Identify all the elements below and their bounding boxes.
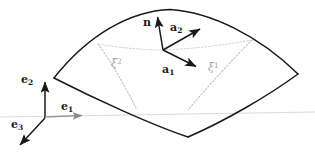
basis-e3-symbol: e — [11, 118, 18, 131]
normal-vector-symbol: n — [143, 16, 151, 29]
label-basis-vector-e2: e2 — [21, 74, 33, 87]
label-coordinate-curve-xi1: ξ1 — [208, 62, 219, 73]
basis-e1-subscript: 1 — [68, 105, 73, 114]
label-basis-vector-e3: e3 — [11, 119, 23, 132]
basis-vector-e3-arrow — [20, 118, 45, 145]
coordinate-curve-xi2 — [98, 44, 136, 108]
figure-canvas — [0, 0, 315, 153]
xi2-superscript: 2 — [117, 57, 122, 66]
basis-vector-e1-arrow — [45, 116, 82, 118]
label-basis-vector-e1: e1 — [61, 101, 73, 114]
coordinate-curve-xi1 — [188, 40, 252, 110]
basis-e3-subscript: 3 — [18, 123, 23, 132]
basis-e2-subscript: 2 — [28, 78, 33, 87]
tangent-a1-subscript: 1 — [169, 68, 174, 77]
surface-patch-bottom-left-edge — [54, 78, 188, 137]
surface-patch-bottom-right-edge — [188, 74, 298, 137]
normal-vector-arrow — [158, 17, 164, 50]
surface-patch-figure: n a2 a1 e1 e2 e3 ξ2 ξ1 — [0, 0, 315, 153]
xi1-superscript: 1 — [214, 61, 219, 70]
basis-e1-symbol: e — [61, 100, 68, 113]
ground-reference-line — [0, 112, 315, 117]
label-coordinate-curve-xi2: ξ2 — [111, 58, 122, 69]
label-normal-vector-n: n — [143, 17, 151, 28]
basis-e2-symbol: e — [21, 73, 28, 86]
tangent-a2-subscript: 2 — [177, 26, 182, 35]
label-tangent-vector-a1: a1 — [162, 64, 174, 77]
label-tangent-vector-a2: a2 — [170, 22, 182, 35]
surface-patch-top-edge — [54, 10, 298, 79]
coordinate-curve-xi2-upper — [98, 44, 163, 50]
coordinate-curve-xi1-upper — [163, 40, 252, 50]
